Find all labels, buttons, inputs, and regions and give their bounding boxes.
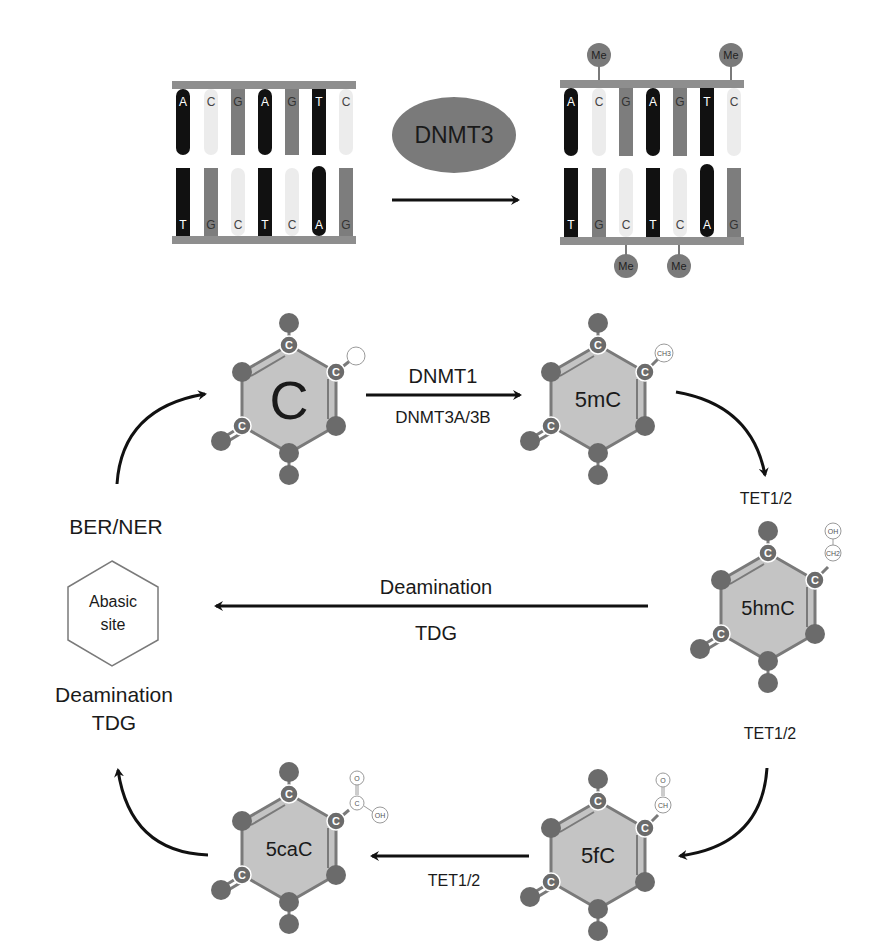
unmethylated-dna: A C G A G T C T G C T C A G <box>172 81 356 244</box>
svg-text:C: C <box>332 815 340 827</box>
svg-text:CH3: CH3 <box>657 350 671 357</box>
5hmc-molecule: C C C CH2 OH 5hmC <box>690 521 841 693</box>
base-label: C <box>288 218 297 232</box>
svg-text:C: C <box>332 366 340 378</box>
base-label: G <box>675 95 684 109</box>
molecule-label: 5caC <box>266 838 313 860</box>
base-label: G <box>233 95 242 109</box>
base-label: T <box>567 218 575 232</box>
bottom-strand <box>172 236 356 244</box>
methylated-dna: A C G A G T C T G C T C A G <box>560 43 744 278</box>
base-label: A <box>315 218 323 232</box>
cytosine-molecule: C C C C <box>211 313 365 485</box>
abasic-label: site <box>101 616 126 633</box>
svg-text:OH: OH <box>828 528 839 535</box>
step-label-deamination-2: Deamination <box>55 683 173 706</box>
abasic-site: Abasic site <box>68 561 158 666</box>
methyl-label: Me <box>591 49 606 61</box>
svg-text:O: O <box>354 775 360 782</box>
step-label-dnmt3ab: DNMT3A/3B <box>395 408 490 427</box>
step-label-dnmt1: DNMT1 <box>409 365 478 387</box>
svg-text:CH2: CH2 <box>826 550 840 557</box>
base-label: G <box>729 218 738 232</box>
base-label: C <box>622 218 631 232</box>
step-label-tet-2: TET1/2 <box>744 725 797 742</box>
molecule-label: 5mC <box>575 387 622 412</box>
base-label: A <box>179 95 187 109</box>
base-label: C <box>234 218 243 232</box>
hydrogen-atom <box>347 347 365 365</box>
5cac-molecule: C C C C O OH 5caC <box>211 762 388 934</box>
svg-text:CH: CH <box>658 802 668 809</box>
base-label: T <box>179 218 187 232</box>
svg-text:C: C <box>764 547 772 559</box>
svg-text:C: C <box>238 869 246 881</box>
molecule-label: 5hmC <box>741 597 794 619</box>
step-label-tet-1: TET1/2 <box>740 490 793 507</box>
bottom-bases: T G C T C A G <box>564 164 741 237</box>
base-label: A <box>567 95 575 109</box>
molecule-label: 5fC <box>581 843 615 868</box>
svg-text:C: C <box>641 366 649 378</box>
abasic-hexagon <box>68 561 158 666</box>
base-label: T <box>261 218 269 232</box>
base-label: G <box>287 95 296 109</box>
svg-text:C: C <box>354 800 359 807</box>
step-label-tdg: TDG <box>415 622 457 644</box>
svg-text:C: C <box>285 339 293 351</box>
base-label: C <box>676 218 685 232</box>
base-label: C <box>595 95 604 109</box>
base-label: A <box>703 218 711 232</box>
methyl-label: Me <box>671 260 686 272</box>
step-label-tdg-2: TDG <box>92 711 136 734</box>
top-bases: A C G A G T C <box>176 89 353 155</box>
base-label: A <box>261 95 269 109</box>
5hmc-to-5fc-arrow <box>680 768 767 856</box>
bottom-bases: T G C T C A G <box>176 166 353 236</box>
enzyme-label: DNMT3 <box>414 122 493 148</box>
base-label: A <box>649 95 657 109</box>
5fc-molecule: C C C CH O 5fC <box>520 769 671 941</box>
base-label: T <box>315 95 323 109</box>
5cac-to-abasic-arrow <box>118 770 208 855</box>
base-label: G <box>621 95 630 109</box>
svg-text:C: C <box>717 628 725 640</box>
svg-text:C: C <box>547 420 555 432</box>
svg-text:C: C <box>594 795 602 807</box>
5mc-molecule: C C C CH3 5mC <box>520 313 673 485</box>
base-label: G <box>206 218 215 232</box>
svg-text:C: C <box>238 420 246 432</box>
base-label: G <box>594 218 603 232</box>
top-strand <box>172 81 356 89</box>
step-label-deamination: Deamination <box>380 576 492 598</box>
molecule-label: C <box>270 370 309 430</box>
svg-text:O: O <box>660 777 666 784</box>
svg-text:C: C <box>641 822 649 834</box>
step-label-ber-ner: BER/NER <box>69 515 162 538</box>
base-label: C <box>207 95 216 109</box>
methyl-label: Me <box>723 49 738 61</box>
dnmt3-enzyme: DNMT3 <box>392 97 516 173</box>
svg-text:C: C <box>594 339 602 351</box>
dna-methylation-diagram: A C G A G T C T G C T C A G DNMT3 <box>0 0 877 942</box>
svg-text:C: C <box>285 788 293 800</box>
abasic-to-c-arrow <box>117 394 205 484</box>
abasic-label: Abasic <box>89 593 137 610</box>
svg-text:OH: OH <box>375 812 386 819</box>
methyl-label: Me <box>618 260 633 272</box>
5mc-to-5hmc-arrow <box>676 392 765 475</box>
top-bases: A C G A G T C <box>564 88 741 156</box>
svg-text:C: C <box>547 876 555 888</box>
base-label: T <box>703 95 711 109</box>
base-label: T <box>649 218 657 232</box>
step-label-tet-3: TET1/2 <box>428 872 481 889</box>
base-label: G <box>341 218 350 232</box>
base-label: C <box>730 95 739 109</box>
svg-text:C: C <box>811 574 819 586</box>
base-label: C <box>342 95 351 109</box>
